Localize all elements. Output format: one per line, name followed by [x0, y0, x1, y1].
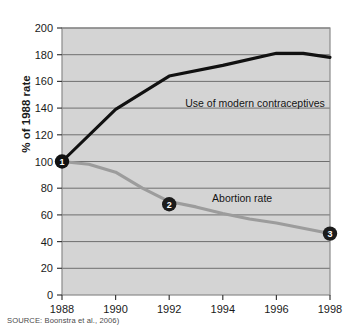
x-axis: 198819901992199419961998 — [50, 295, 342, 315]
y-tick-label: 200 — [35, 22, 53, 34]
x-tick-label: 1996 — [264, 303, 288, 315]
x-tick-label: 1992 — [157, 303, 181, 315]
x-tick-label: 1990 — [103, 303, 127, 315]
y-axis-title: % of 1988 rate — [20, 62, 32, 166]
series-label-1: Use of modern contraceptives — [185, 97, 324, 109]
x-tick-label: 1998 — [318, 303, 342, 315]
point-marker-1: 1 — [55, 154, 69, 168]
y-tick-label: 140 — [35, 102, 53, 114]
y-tick-label: 160 — [35, 75, 53, 87]
point-marker-label: 1 — [59, 157, 64, 167]
line-chart: 020406080100120140160180200 198819901992… — [0, 0, 349, 335]
source-note: SOURCE: Boonstra et al., 2006) — [7, 316, 119, 325]
x-tick-label: 1994 — [211, 303, 235, 315]
y-tick-label: 20 — [41, 262, 53, 274]
y-tick-label: 80 — [41, 182, 53, 194]
point-marker-2: 2 — [162, 197, 176, 211]
y-tick-label: 60 — [41, 209, 53, 221]
y-tick-label: 40 — [41, 236, 53, 248]
point-marker-label: 2 — [167, 200, 172, 210]
point-marker-label: 3 — [327, 229, 332, 239]
y-tick-label: 120 — [35, 129, 53, 141]
point-marker-3: 3 — [323, 226, 337, 240]
y-tick-label: 0 — [47, 289, 53, 301]
y-tick-label: 100 — [35, 156, 53, 168]
series-label-2: Abortion rate — [212, 192, 272, 204]
chart-figure: 020406080100120140160180200 198819901992… — [0, 0, 349, 335]
x-tick-label: 1988 — [50, 303, 74, 315]
y-tick-label: 180 — [35, 49, 53, 61]
